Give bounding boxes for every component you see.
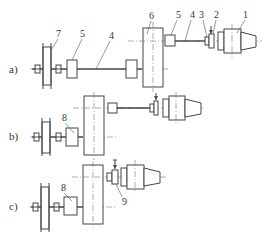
callout-6: 6 bbox=[149, 10, 154, 21]
coupling-5-lower bbox=[67, 60, 77, 78]
chuck-1 bbox=[224, 29, 241, 53]
element-b bbox=[154, 101, 158, 115]
callout-4-top: 4 bbox=[190, 9, 195, 20]
coupling-5-upper bbox=[165, 35, 175, 46]
chuck-flange-c bbox=[121, 168, 127, 186]
callout-7: 7 bbox=[56, 28, 61, 39]
pulley-b bbox=[42, 122, 50, 153]
callout-3: 3 bbox=[199, 9, 204, 20]
callout-8-c: 8 bbox=[61, 182, 66, 193]
element-9 bbox=[112, 170, 118, 184]
label-a: a) bbox=[9, 63, 18, 76]
label-c: c) bbox=[9, 200, 18, 213]
chuck-nose-a bbox=[241, 32, 256, 50]
callout-8-b: 8 bbox=[62, 112, 67, 123]
chuck-b bbox=[169, 96, 185, 120]
callout-1: 1 bbox=[243, 9, 248, 20]
chuck-flange-a bbox=[218, 32, 224, 50]
pulley-c bbox=[41, 187, 49, 229]
pulley-7 bbox=[43, 47, 51, 85]
variant-a: a) 7 5 bbox=[9, 9, 262, 92]
variant-c: c) 8 9 bbox=[9, 160, 166, 232]
element-2 bbox=[209, 34, 214, 48]
chuck-c bbox=[127, 165, 144, 189]
callout-5-top: 5 bbox=[176, 9, 181, 20]
callout-5-left: 5 bbox=[80, 28, 85, 39]
element-b-small bbox=[150, 104, 154, 112]
callout-4-left: 4 bbox=[109, 30, 114, 41]
chuck-nose-c bbox=[144, 168, 160, 186]
coupling-lower-right bbox=[126, 60, 137, 78]
variant-b: b) 8 bbox=[9, 92, 205, 160]
callout-2: 2 bbox=[214, 9, 219, 20]
chuck-flange-b bbox=[163, 99, 169, 117]
callout-9: 9 bbox=[122, 196, 127, 207]
coupling-upper-b bbox=[108, 103, 117, 113]
element-3 bbox=[205, 37, 209, 45]
chuck-nose-b bbox=[185, 99, 201, 117]
diagram-canvas: a) 7 5 bbox=[0, 0, 272, 241]
label-b: b) bbox=[9, 130, 19, 143]
element-9-small bbox=[107, 173, 112, 181]
